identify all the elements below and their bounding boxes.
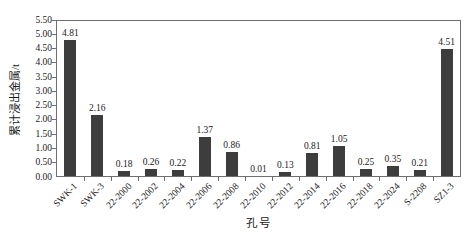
y-tick-label: 1.50 <box>2 129 52 140</box>
x-tick-mark <box>299 177 300 181</box>
x-tick-mark <box>111 177 112 181</box>
y-tick-mark <box>52 148 56 149</box>
x-tick-label: 22-2012 <box>265 181 294 210</box>
x-tick-label: 22-2010 <box>238 181 267 210</box>
x-tick-mark <box>164 177 165 181</box>
bar-value-label: 4.81 <box>50 28 90 38</box>
y-tick-label: 5.50 <box>2 15 52 26</box>
x-tick-label: 22-2014 <box>292 181 321 210</box>
y-tick-mark <box>52 91 56 92</box>
bar <box>145 169 157 176</box>
x-tick-mark <box>406 177 407 181</box>
bar-value-label: 1.37 <box>185 125 225 135</box>
x-axis-title: 孔号 <box>56 214 461 230</box>
bar <box>199 137 211 176</box>
y-tick-label: 3.00 <box>2 86 52 97</box>
x-tick-label: 22-2008 <box>211 181 240 210</box>
bar <box>118 171 130 176</box>
x-tick-mark <box>191 177 192 181</box>
bar <box>306 153 318 176</box>
bar-value-label: 0.21 <box>400 158 440 168</box>
y-tick-label: 0.50 <box>2 157 52 168</box>
y-tick-label: 3.50 <box>2 72 52 83</box>
x-tick-mark <box>84 177 85 181</box>
x-tick-label: 22-2004 <box>158 181 187 210</box>
x-tick-label: S-2208 <box>402 181 428 207</box>
y-tick-label: 4.00 <box>2 57 52 68</box>
x-tick-mark <box>353 177 354 181</box>
x-tick-label: 22-2024 <box>372 181 401 210</box>
x-tick-mark <box>138 177 139 181</box>
y-tick-mark <box>52 20 56 21</box>
bar <box>91 115 103 176</box>
y-tick-mark <box>52 162 56 163</box>
bar-chart-figure: 累计浸出金属/t 0.000.501.001.502.002.503.003.5… <box>0 0 472 240</box>
bar-value-label: 0.13 <box>265 160 305 170</box>
bar <box>64 40 76 176</box>
x-tick-mark <box>245 177 246 181</box>
y-tick-mark <box>52 62 56 63</box>
x-tick-mark <box>272 177 273 181</box>
y-tick-label: 2.00 <box>2 114 52 125</box>
bar <box>360 169 372 176</box>
y-tick-mark <box>52 77 56 78</box>
y-tick-label: 5.00 <box>2 29 52 40</box>
bar <box>414 170 426 176</box>
bar <box>172 170 184 176</box>
y-tick-mark <box>52 134 56 135</box>
bar-value-label: 2.16 <box>77 103 117 113</box>
bar-value-label: 0.86 <box>212 140 252 150</box>
x-tick-label: SZ1-3 <box>432 181 456 205</box>
y-tick-label: 0.00 <box>2 172 52 183</box>
bar-value-label: 4.51 <box>427 37 467 47</box>
bar <box>333 146 345 176</box>
x-tick-label: 22-2002 <box>131 181 160 210</box>
y-tick-mark <box>52 119 56 120</box>
y-tick-mark <box>52 105 56 106</box>
bar <box>226 152 238 176</box>
y-tick-label: 2.50 <box>2 100 52 111</box>
x-tick-mark <box>326 177 327 181</box>
bar <box>387 166 399 176</box>
x-tick-label: 22-2000 <box>104 181 133 210</box>
bar-value-label: 1.05 <box>319 134 359 144</box>
x-tick-mark <box>379 177 380 181</box>
bar <box>441 49 453 176</box>
x-tick-mark <box>433 177 434 181</box>
y-tick-label: 4.50 <box>2 43 52 54</box>
x-tick-label: 22-2016 <box>319 181 348 210</box>
bar <box>279 172 291 176</box>
x-tick-label: 22-2018 <box>346 181 375 210</box>
x-tick-mark <box>218 177 219 181</box>
y-tick-mark <box>52 48 56 49</box>
bar-value-label: 0.22 <box>158 158 198 168</box>
y-tick-label: 1.00 <box>2 143 52 154</box>
x-tick-label: SWK-1 <box>52 181 80 209</box>
x-tick-label: 22-2006 <box>184 181 213 210</box>
x-tick-label: SWK-3 <box>79 181 107 209</box>
